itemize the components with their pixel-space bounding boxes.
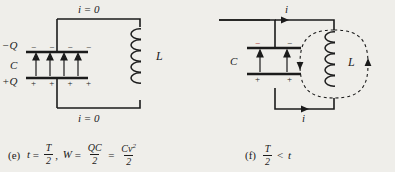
- fraction-denominator: 2: [124, 155, 133, 168]
- fraction-denominator: 2: [90, 154, 99, 167]
- caption-equals-e: =: [33, 148, 39, 160]
- top-plate-signs-e: − − − −: [31, 43, 91, 52]
- minus-sign: −: [255, 39, 260, 48]
- charge-label-positive-e: +Q: [2, 76, 17, 87]
- plus-sign: +: [49, 79, 54, 88]
- caption-relation-f: <: [277, 149, 283, 161]
- field-arrow-left-f: [297, 62, 304, 70]
- bottom-wire-f: [275, 88, 334, 109]
- fraction-numerator: QC: [86, 143, 104, 154]
- caption-middle-equals-e: =: [108, 148, 114, 160]
- field-arrow-right-f: [365, 58, 372, 66]
- figure-canvas: i = 0 i = 0 L C −Q +Q − − − − + + + +: [0, 0, 395, 172]
- top-plate-signs-f: − −: [255, 39, 292, 48]
- plus-sign: +: [68, 79, 73, 88]
- capacitor-field-arrows-f: [257, 50, 290, 72]
- capacitor-label-f: C: [230, 56, 237, 67]
- plus-sign: +: [31, 79, 36, 88]
- fraction-numerator: Cv2: [119, 143, 138, 155]
- fraction-period-f: T 2: [263, 144, 273, 167]
- inductor-label-f: L: [348, 56, 355, 68]
- current-label-bottom-e: i = 0: [78, 113, 99, 124]
- caption-time-var-e: t: [27, 148, 30, 160]
- caption-energy-equals-e: =: [75, 148, 81, 160]
- capacitor-field-arrows-e: [33, 54, 81, 77]
- capacitor-label-e: C: [10, 60, 17, 71]
- current-arrow-top-f: [281, 17, 289, 24]
- minus-sign: −: [86, 43, 91, 52]
- fraction-term1-e: QC 2: [86, 143, 104, 166]
- circuit-f-wires: [197, 0, 395, 136]
- plus-sign: +: [287, 75, 292, 84]
- top-wire-e: [57, 19, 140, 27]
- minus-sign: −: [287, 39, 292, 48]
- minus-sign: −: [68, 43, 73, 52]
- fraction-numerator: T: [44, 143, 54, 154]
- fraction-denominator: 2: [263, 155, 272, 168]
- bottom-plate-signs-e: + + + +: [31, 79, 91, 88]
- coil-mask-e: [141, 28, 153, 84]
- minus-sign: −: [49, 43, 54, 52]
- charge-label-negative-e: −Q: [2, 40, 17, 51]
- caption-energy-var-e: W: [63, 148, 72, 160]
- fraction-numerator: T: [263, 144, 273, 155]
- term2-base: Cv: [121, 143, 132, 154]
- bottom-wire-e: [57, 100, 140, 108]
- fraction-denominator: 2: [44, 154, 53, 167]
- current-label-top-f: i: [285, 4, 288, 15]
- coil-mask-f: [335, 31, 346, 87]
- plus-sign: +: [86, 79, 91, 88]
- caption-time-var-f: t: [288, 149, 291, 161]
- circuit-diagram-f: i i L C − − + +: [197, 0, 395, 136]
- term2-exponent: 2: [132, 142, 136, 150]
- current-label-top-e: i = 0: [78, 4, 99, 15]
- fraction-period-e: T 2: [44, 143, 54, 166]
- plus-sign: +: [255, 75, 260, 84]
- current-label-bottom-f: i: [302, 113, 305, 124]
- inductor-label-e: L: [156, 50, 163, 62]
- minus-sign: −: [31, 43, 36, 52]
- fraction-term2-e: Cv2 2: [119, 143, 138, 167]
- circuit-diagram-e: i = 0 i = 0 L C −Q +Q − − − − + + + +: [0, 0, 197, 136]
- caption-comma-e: ,: [55, 148, 58, 160]
- caption-tag-f: (f): [245, 149, 256, 161]
- bottom-plate-signs-f: + +: [255, 75, 292, 84]
- caption-tag-e: (e): [8, 148, 20, 160]
- caption-e: (e) t = T 2 , W = QC 2 = Cv2 2: [8, 144, 140, 168]
- caption-f: (f) T 2 < t: [245, 145, 291, 168]
